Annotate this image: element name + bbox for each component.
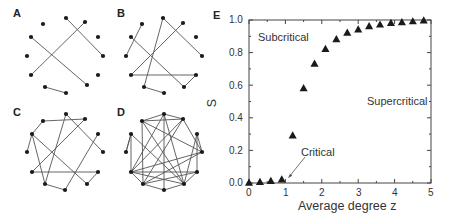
x-tick-label: 2 (319, 187, 325, 198)
y-tick-label: 1.0 (229, 14, 243, 25)
x-tick-label: 3 (356, 187, 362, 198)
x-tick-label: 5 (428, 187, 434, 198)
y-tick-label: 0.2 (229, 145, 243, 156)
y-tick-label: 0.6 (229, 80, 243, 91)
chart-plot-area (0, 0, 451, 223)
data-point-triangle (376, 20, 384, 27)
y-tick-label: 0.8 (229, 47, 243, 58)
arrow-head-icon (288, 174, 292, 178)
y-axis-title: S (205, 99, 219, 107)
x-tick-label: 0 (246, 187, 252, 198)
data-point-triangle (321, 45, 329, 52)
y-tick-label: 0.0 (229, 177, 243, 188)
subcritical-label: Subcritical (258, 31, 309, 43)
data-point-triangle (289, 131, 297, 138)
data-point-triangle (409, 17, 417, 24)
data-point-triangle (343, 29, 351, 36)
data-point-triangle (245, 179, 253, 186)
x-tick-label: 4 (392, 187, 398, 198)
data-point-triangle (310, 60, 318, 67)
data-point-triangle (398, 18, 406, 25)
data-point-triangle (256, 178, 264, 185)
data-point-triangle (354, 25, 362, 32)
data-point-triangle (267, 177, 275, 184)
data-point-triangle (300, 84, 308, 91)
data-point-triangle (365, 22, 373, 29)
y-tick-label: 0.4 (229, 112, 243, 123)
data-point-triangle (278, 175, 286, 182)
x-tick-label: 1 (283, 187, 289, 198)
critical-label: Critical (301, 146, 335, 158)
x-axis-title: Average degree z (298, 199, 396, 213)
supercritical-label: Supercritical (367, 95, 428, 107)
data-point-triangle (332, 35, 340, 42)
